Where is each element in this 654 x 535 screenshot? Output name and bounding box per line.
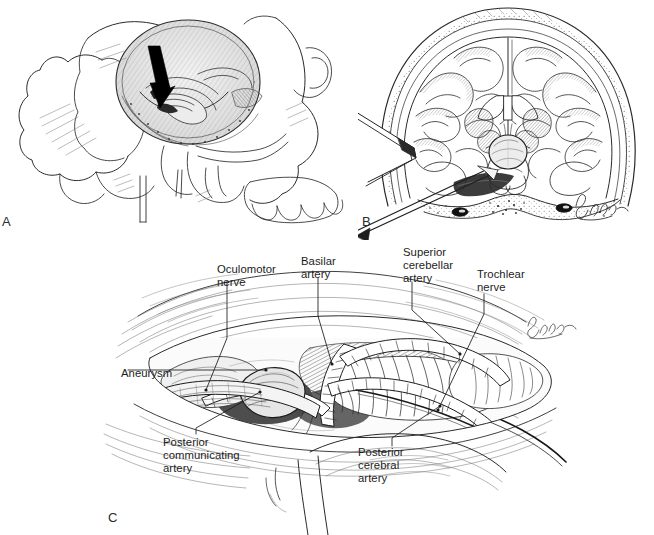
aneurysm-sac-panel-b <box>489 135 527 169</box>
instrument-shaft-panel-c <box>266 456 328 535</box>
label-superior-cerebellar-artery: Superior cerebellar artery <box>403 246 453 286</box>
panel-letter-c: C <box>108 510 118 525</box>
panel-a-lateral-skull <box>0 0 360 240</box>
panel-letter-b: B <box>362 214 371 229</box>
label-posterior-communicating-artery: Posterior communicating artery <box>163 436 240 476</box>
figure-root: A B C Oculomotor nerve Basilar artery Su… <box>0 0 654 535</box>
label-oculomotor-nerve: Oculomotor nerve <box>217 263 276 289</box>
panel-letter-a: A <box>2 214 11 229</box>
label-basilar-artery: Basilar artery <box>301 255 336 281</box>
panel-c-operative-view <box>70 238 654 535</box>
panel-c-drawing <box>70 238 654 535</box>
panel-b-drawing <box>358 0 654 240</box>
label-posterior-cerebral-artery: Posterior cerebral artery <box>358 446 404 486</box>
panel-b-coronal-section <box>358 0 654 240</box>
caption-strip <box>0 526 654 535</box>
label-aneurysm: Aneurysm <box>121 367 172 380</box>
panel-a-drawing <box>0 0 360 240</box>
artist-signature-panel-c <box>528 317 576 339</box>
label-trochlear-nerve: Trochlear nerve <box>477 268 525 294</box>
